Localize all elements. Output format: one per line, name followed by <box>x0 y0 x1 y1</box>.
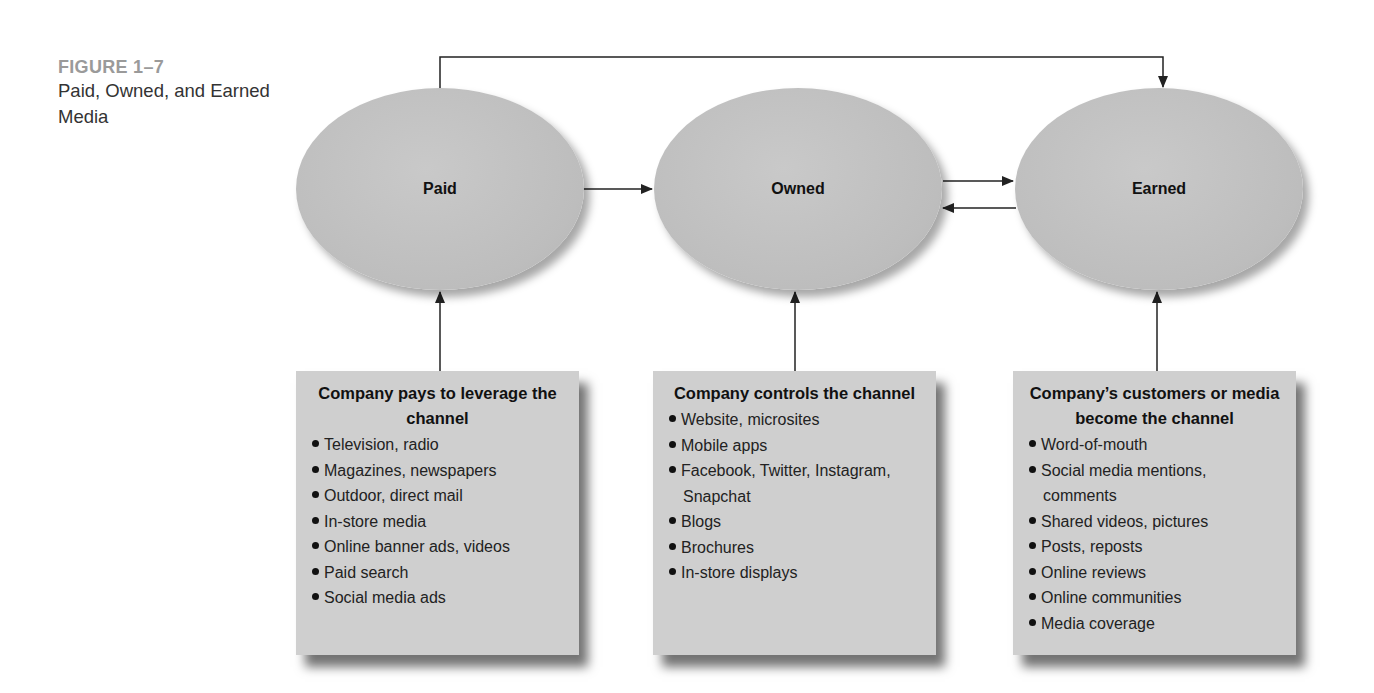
bullet-icon <box>669 466 676 473</box>
box-list: Website, microsites Mobile apps Facebook… <box>667 407 922 586</box>
list-item: Online banner ads, videos <box>312 534 565 560</box>
bullet-icon <box>669 441 676 448</box>
list-item: Posts, reposts <box>1029 534 1282 560</box>
list-item: Television, radio <box>312 432 565 458</box>
box-list: Television, radio Magazines, newspapers … <box>310 432 565 611</box>
bullet-icon <box>1029 619 1036 626</box>
box-paid: Company pays to leverage the channel Tel… <box>296 371 579 655</box>
list-item: Online communities <box>1029 585 1282 611</box>
bullet-icon <box>312 542 319 549</box>
list-item: Social media ads <box>312 585 565 611</box>
list-item: Outdoor, direct mail <box>312 483 565 509</box>
bullet-icon <box>1029 593 1036 600</box>
bullet-icon <box>312 593 319 600</box>
list-item: Blogs <box>669 509 922 535</box>
node-earned: Earned <box>1015 88 1303 290</box>
list-item: Online reviews <box>1029 560 1282 586</box>
node-owned: Owned <box>654 88 942 290</box>
bullet-icon <box>1029 440 1036 447</box>
list-item: In-store media <box>312 509 565 535</box>
bullet-icon <box>1029 568 1036 575</box>
list-item: Media coverage <box>1029 611 1282 637</box>
box-owned: Company controls the channel Website, mi… <box>653 371 936 655</box>
bullet-icon <box>312 568 319 575</box>
box-list: Word-of-mouth Social media mentions, com… <box>1027 432 1282 636</box>
bullet-icon <box>312 491 319 498</box>
list-item: Website, microsites <box>669 407 922 433</box>
bullet-icon <box>669 517 676 524</box>
list-item: Word-of-mouth <box>1029 432 1282 458</box>
list-item: Mobile apps <box>669 433 922 459</box>
box-title: Company controls the channel <box>667 381 922 406</box>
bullet-icon <box>312 466 319 473</box>
bullet-icon <box>669 415 676 422</box>
bullet-icon <box>312 517 319 524</box>
list-item: Shared videos, pictures <box>1029 509 1282 535</box>
node-label: Earned <box>1132 180 1186 198</box>
figure-number: FIGURE 1–7 <box>58 57 164 78</box>
bullet-icon <box>1029 517 1036 524</box>
bullet-icon <box>1029 542 1036 549</box>
bullet-icon <box>312 440 319 447</box>
arrow-paid-to-earned <box>440 57 1163 88</box>
list-item: In-store displays <box>669 560 922 586</box>
node-label: Paid <box>423 180 457 198</box>
figure-caption: Paid, Owned, and Earned Media <box>58 78 318 130</box>
list-item: Social media mentions, comments <box>1029 458 1282 509</box>
node-paid: Paid <box>296 88 584 290</box>
list-item: Facebook, Twitter, Instagram, Snapchat <box>669 458 922 509</box>
list-item: Brochures <box>669 535 922 561</box>
bullet-icon <box>669 543 676 550</box>
list-item: Paid search <box>312 560 565 586</box>
bullet-icon <box>1029 466 1036 473</box>
bullet-icon <box>669 568 676 575</box>
box-title: Company pays to leverage the channel <box>310 381 565 431</box>
box-earned: Company’s customers or media become the … <box>1013 371 1296 655</box>
list-item: Magazines, newspapers <box>312 458 565 484</box>
box-title: Company’s customers or media become the … <box>1027 381 1282 431</box>
node-label: Owned <box>771 180 824 198</box>
